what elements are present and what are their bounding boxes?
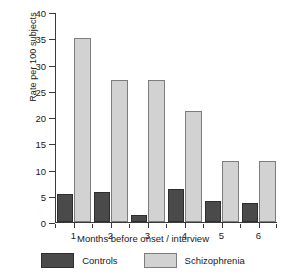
bar-schizophrenia-month-5	[222, 161, 239, 222]
y-axis-tick-label: 10	[35, 165, 46, 176]
bar-controls-month-5	[205, 201, 222, 222]
x-axis-tick	[185, 223, 186, 228]
y-axis-tick-label: 20	[35, 113, 46, 124]
y-axis-tick	[49, 13, 55, 14]
x-axis-tick	[111, 223, 112, 228]
y-axis-tick-label: 25	[35, 86, 46, 97]
x-axis-boundary-tick	[276, 224, 277, 228]
x-axis-line	[55, 222, 277, 223]
y-axis-tick	[49, 66, 55, 67]
bar-controls-month-1	[57, 194, 74, 222]
x-axis-tick	[222, 223, 223, 228]
legend-label-schizophrenia: Schizophrenia	[185, 255, 245, 266]
bar-schizophrenia-month-6	[259, 161, 276, 222]
x-axis-title: Months before onset / interview	[0, 233, 286, 244]
y-axis-tick-label: 35	[35, 34, 46, 45]
bar-controls-month-4	[168, 189, 185, 222]
bar-controls-month-3	[131, 215, 148, 222]
y-axis-tick-label: 5	[41, 191, 46, 202]
chart-legend: ControlsSchizophrenia	[0, 253, 286, 268]
bar-chart-figure: Rate per 100 subjects 051015202530354012…	[0, 0, 286, 278]
y-axis-tick-label: 40	[35, 8, 46, 19]
plot-area: 0510152025303540123456	[55, 13, 277, 223]
bar-schizophrenia-month-4	[185, 111, 202, 221]
y-axis-tick	[49, 92, 55, 93]
y-axis-tick	[49, 197, 55, 198]
bar-controls-month-2	[94, 192, 111, 221]
bar-schizophrenia-month-1	[74, 38, 91, 222]
y-axis-tick	[49, 171, 55, 172]
x-axis-boundary-tick	[92, 224, 93, 228]
x-axis-boundary-tick	[55, 224, 56, 228]
y-axis-tick	[49, 118, 55, 119]
y-axis-tick-label: 15	[35, 139, 46, 150]
legend-item-schizophrenia[interactable]: Schizophrenia	[144, 253, 245, 268]
y-axis-tick-label: 0	[41, 218, 46, 229]
y-axis-tick	[49, 144, 55, 145]
bar-controls-month-6	[242, 203, 259, 221]
x-axis-boundary-tick	[240, 224, 241, 228]
x-axis-boundary-tick	[166, 224, 167, 228]
y-axis-tick	[49, 39, 55, 40]
y-axis-tick-label: 30	[35, 60, 46, 71]
bar-schizophrenia-month-2	[111, 80, 128, 222]
legend-swatch-controls	[41, 253, 74, 268]
x-axis-boundary-tick	[203, 224, 204, 228]
bar-schizophrenia-month-3	[148, 80, 165, 222]
y-axis-line	[55, 13, 56, 223]
x-axis-boundary-tick	[129, 224, 130, 228]
legend-item-controls[interactable]: Controls	[41, 253, 117, 268]
x-axis-tick	[148, 223, 149, 228]
x-axis-tick	[259, 223, 260, 228]
legend-label-controls: Controls	[82, 255, 117, 266]
x-axis-tick	[74, 223, 75, 228]
legend-swatch-schizophrenia	[144, 253, 177, 268]
